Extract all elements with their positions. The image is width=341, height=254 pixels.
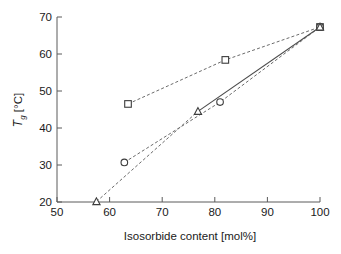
y-tick-label-30: 30 — [39, 159, 52, 171]
x-tick-label-70: 70 — [156, 206, 169, 218]
y-tick-label-60: 60 — [39, 48, 52, 60]
series-line-squares — [128, 27, 320, 104]
series-lines — [96, 27, 320, 202]
x-tick-label-60: 60 — [103, 206, 116, 218]
svg-text:Tg [°C]: Tg [°C] — [11, 93, 27, 127]
x-tick-label-100: 100 — [310, 206, 329, 218]
x-tick-labels: 50 60 70 80 90 100 — [51, 206, 330, 218]
chart-figure: 20 30 40 50 60 70 50 60 70 80 90 100 Iso… — [0, 0, 341, 254]
data-point-triangle-0 — [93, 198, 100, 205]
data-point-square-1 — [222, 57, 229, 64]
y-axis-title: Tg [°C] — [11, 93, 27, 127]
y-tick-label-70: 70 — [39, 11, 52, 23]
data-point-triangle-1 — [194, 108, 201, 115]
axis-lines — [57, 17, 320, 202]
y-tick-label-40: 40 — [39, 122, 52, 134]
series-line-triangles-solid — [198, 27, 320, 111]
y-tick-marks — [57, 17, 62, 202]
data-point-square-0 — [125, 101, 132, 108]
data-point-circle-0 — [121, 159, 128, 166]
series-line-triangles-dashed — [96, 111, 198, 201]
y-tick-labels: 20 30 40 50 60 70 — [39, 11, 52, 208]
x-tick-label-80: 80 — [208, 206, 221, 218]
chart-canvas: 20 30 40 50 60 70 50 60 70 80 90 100 Iso… — [0, 0, 341, 254]
y-tick-label-50: 50 — [39, 85, 52, 97]
data-point-circle-1 — [217, 99, 224, 106]
x-tick-label-90: 90 — [261, 206, 274, 218]
x-axis-title: Isosorbide content [mol%] — [124, 230, 256, 242]
y-axis-title-unit: [°C] — [12, 93, 24, 116]
x-tick-label-50: 50 — [51, 206, 64, 218]
